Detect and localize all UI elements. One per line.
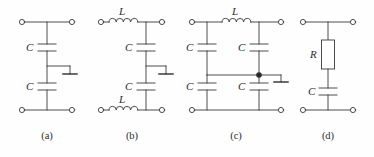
circuit-figure: C C L L C C L C C C C R C (a) (b) (c) (d… [0,0,374,157]
capacitor-c-rt-label: C [238,41,245,53]
panel-b-caption: (b) [117,130,147,141]
panel-b-circuit [101,18,173,110]
panel-a-caption: (a) [32,130,62,141]
panel-c-terminals [189,19,283,112]
inductor-b-top-coil [109,18,138,22]
terminal-a-tl [19,19,24,24]
resistor-d-label: R [310,48,317,60]
terminal-a-br [69,107,74,112]
terminal-c-bl [189,107,194,112]
capacitor-c-lt-label: C [186,41,193,53]
terminal-c-tr [278,19,283,24]
terminal-d-tl [300,19,305,24]
panel-c-caption: (c) [221,130,251,141]
capacitor-a-top-label: C [26,41,33,53]
terminal-c-br [278,107,283,112]
inductor-b-top-label: L [119,5,125,17]
terminal-a-tr [69,19,74,24]
terminal-d-br [350,107,355,112]
terminal-b-br [159,107,164,112]
inductor-b-bottom-label: L [119,93,125,105]
terminal-a-bl [19,107,24,112]
terminal-b-tr [159,19,164,24]
inductor-c-top-label: L [232,5,238,17]
terminal-d-tr [350,19,355,24]
panel-a-circuit [22,22,77,110]
inductor-b-bottom-coil [109,106,138,110]
capacitor-b-bottom-label: C [125,80,132,92]
capacitor-c-lb-label: C [186,80,193,92]
junction-dot-icon [256,72,262,78]
capacitor-d-label: C [308,85,315,97]
terminal-b-tl [98,19,103,24]
terminal-d-bl [300,107,305,112]
inductor-c-top-coil [222,18,251,22]
capacitor-a-bottom-label: C [26,80,33,92]
capacitor-b-top-label: C [125,41,132,53]
panel-c-circuit [192,18,288,110]
terminal-c-tl [189,19,194,24]
resistor-d-body [322,40,335,69]
panel-d-caption: (d) [313,130,343,141]
capacitor-c-rb-label: C [238,80,245,92]
terminal-b-bl [98,107,103,112]
